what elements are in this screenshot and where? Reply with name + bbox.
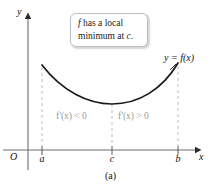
function-curve [42, 63, 178, 104]
callout-text-1: has a local [81, 18, 123, 28]
callout-line-2: minimum at c. [78, 30, 141, 43]
x-axis-label: x [199, 151, 203, 162]
left-region-label: f'(x) < 0 [56, 111, 87, 121]
y-axis-label: y [17, 6, 21, 17]
tick-label-a: a [35, 153, 49, 164]
curve-label: y = f(x) [164, 52, 194, 63]
callout-period: . [131, 31, 133, 41]
tick-label-b: b [171, 153, 185, 164]
tick-label-c: c [105, 153, 119, 164]
right-region-label: f'(x) > 0 [118, 111, 149, 121]
callout-box: f has a local minimum at c. [70, 13, 148, 47]
callout-text-2: minimum at [78, 31, 127, 41]
figure-caption: (a) [0, 170, 221, 181]
callout-line-1: f has a local [78, 17, 141, 30]
origin-label: O [10, 151, 17, 162]
figure-container: f has a local minimum at c. y x O a c b … [0, 0, 221, 193]
